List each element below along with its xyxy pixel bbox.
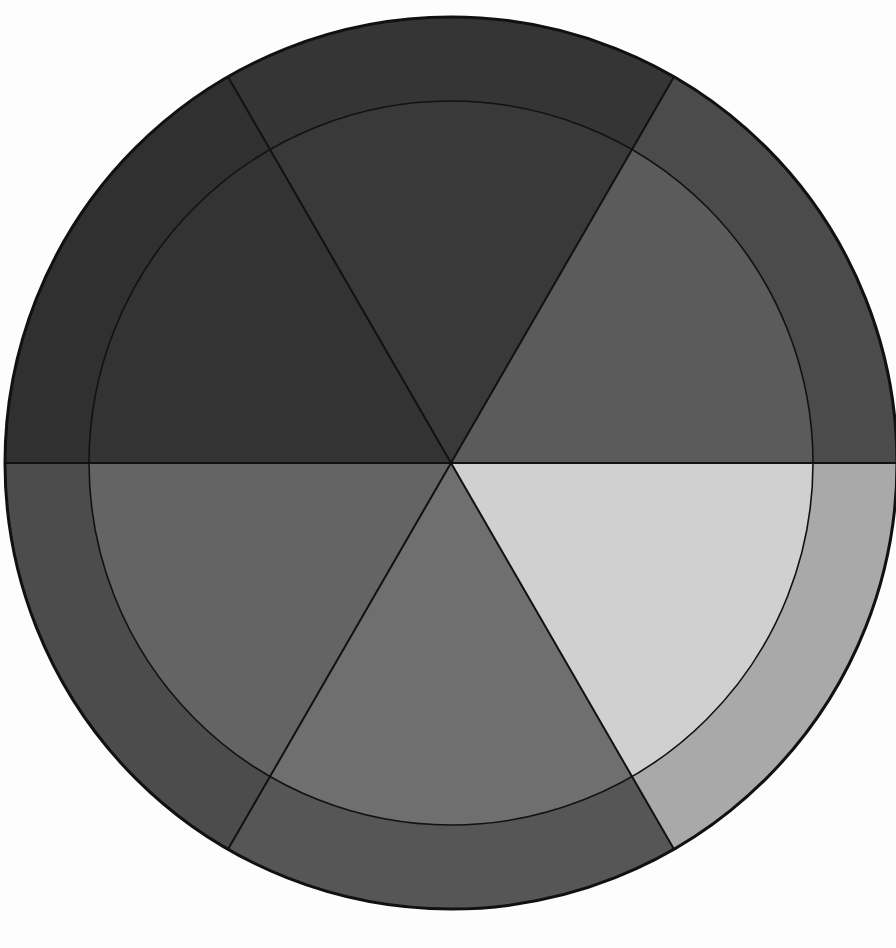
color-wheel bbox=[0, 0, 896, 948]
